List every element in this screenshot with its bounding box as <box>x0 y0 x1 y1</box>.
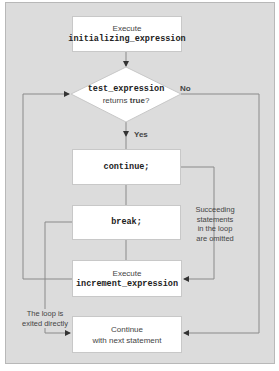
omitted-line-3: in the loop <box>190 224 240 234</box>
yes-label: Yes <box>134 130 148 140</box>
omitted-line-2: statements <box>190 215 240 225</box>
no-label: No <box>180 84 191 94</box>
omitted-line-4: are omitted <box>190 234 240 244</box>
next-line-1: Continue <box>111 324 143 335</box>
test-expression: test_expression <box>71 84 181 95</box>
init-box: Execute initializing_expression <box>72 16 182 52</box>
next-statement-box: Continue with next statement <box>72 316 182 353</box>
test-decision: test_expression returns true? <box>71 84 181 106</box>
increment-box: Execute increment_expression <box>72 260 182 297</box>
exited-line-1: The loop is <box>18 309 72 319</box>
question-mark: ? <box>145 96 149 105</box>
continue-box: continue; <box>72 149 181 185</box>
break-box: break; <box>72 205 181 240</box>
exited-line-2: exited directly <box>18 319 72 329</box>
test-returns: returns true? <box>71 95 181 106</box>
returns-text: returns <box>103 96 130 105</box>
exited-note: The loop is exited directly <box>18 309 72 328</box>
omitted-line-1: Succeeding <box>190 205 240 215</box>
increment-expression: increment_expression <box>76 279 178 290</box>
true-text: true <box>130 96 145 105</box>
next-line-2: with next statement <box>93 335 162 346</box>
continue-statement: continue; <box>104 162 150 173</box>
increment-label: Execute <box>113 268 142 279</box>
init-expression: initializing_expression <box>68 34 185 45</box>
break-statement: break; <box>111 217 142 228</box>
omitted-note: Succeeding statements in the loop are om… <box>190 205 240 243</box>
init-label: Execute <box>113 23 142 34</box>
